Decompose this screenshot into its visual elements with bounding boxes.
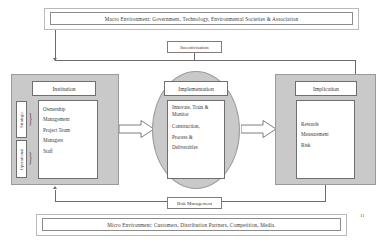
operational-brace-icon: } <box>29 150 33 165</box>
incentivisation-box-riser <box>194 53 195 60</box>
institution-item: Project Team <box>43 125 97 135</box>
implication-item: Risk <box>301 140 354 150</box>
implication-item: Measurement <box>301 129 354 139</box>
institution-side-label-operational: Operational <box>16 140 27 178</box>
strategic-label: Strategic <box>19 111 24 127</box>
page-number: 11 <box>360 213 365 218</box>
strategic-brace-icon: } <box>29 111 33 126</box>
implementation-item: Process & <box>172 132 224 142</box>
implication-item: Rewards <box>301 119 354 129</box>
implication-body: Rewards Measurement Risk <box>296 100 355 179</box>
risk-management-right-drop <box>325 185 326 201</box>
arrow-institution-to-implementation <box>119 120 155 138</box>
institution-item: Management <box>43 114 97 124</box>
risk-management-left-riser <box>55 190 56 201</box>
diagram-canvas: Macro Environment: Government, Technolog… <box>0 0 388 245</box>
incentivisation-top-line <box>55 60 355 61</box>
implication-title: Implication <box>313 86 339 92</box>
risk-management-box: Risk Management <box>167 197 222 209</box>
implementation-item: Deliverables <box>172 142 224 152</box>
operational-label: Operational <box>19 148 24 170</box>
risk-management-label: Risk Management <box>177 201 212 206</box>
micro-environment-banner: Micro Environment: Customers, Distributi… <box>42 218 341 231</box>
incentivisation-label: Incentivisation <box>180 45 209 50</box>
implementation-title-box: Implementation <box>164 81 228 96</box>
implementation-body: Innovate, Train & Monitor Construction, … <box>167 100 225 179</box>
implementation-item: Innovate, Train & Monitor <box>172 104 218 117</box>
micro-environment-text: Micro Environment: Customers, Distributi… <box>107 222 275 228</box>
implication-title-box: Implication <box>295 81 357 96</box>
macro-environment-banner: Macro Environment: Government, Technolog… <box>50 12 353 25</box>
implementation-title: Implementation <box>178 86 213 92</box>
macro-environment-text: Macro Environment: Government, Technolog… <box>105 16 298 22</box>
risk-management-arrowhead <box>53 186 57 189</box>
incentivisation-box: Incentivisation <box>167 41 222 53</box>
institution-title-box: Institution <box>32 81 96 96</box>
arrow-implementation-to-implication <box>241 120 277 138</box>
institution-title: Institution <box>53 86 76 92</box>
institution-item: Staff <box>43 146 97 156</box>
institution-body: Ownership Management Project Team Manage… <box>38 100 98 179</box>
incentivisation-right-riser <box>355 60 356 74</box>
macro-to-frame-line <box>55 30 56 60</box>
institution-item: Managers <box>43 135 97 145</box>
institution-side-label-strategic: Strategic <box>16 101 27 138</box>
implementation-item: Construction, <box>172 121 224 131</box>
institution-item: Ownership <box>43 104 97 114</box>
